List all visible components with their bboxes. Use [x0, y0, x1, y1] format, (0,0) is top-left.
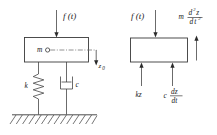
- svg-text:c: c: [164, 91, 168, 100]
- svg-text:d: d: [190, 17, 194, 26]
- svg-text:dz: dz: [171, 87, 178, 96]
- svg-text:m: m: [179, 12, 185, 21]
- left-physical-system: f (t) m z 0 k: [10, 10, 105, 124]
- spring-force-arrow: [139, 63, 143, 87]
- damper-element: [61, 72, 73, 115]
- ground-support: [10, 115, 97, 124]
- inertia-force-label: m d 2 z d t 2: [179, 7, 203, 26]
- spring-element: [33, 74, 44, 99]
- svg-text:t: t: [194, 17, 197, 26]
- left-applied-force-label: f (t): [63, 11, 76, 21]
- diagram-canvas: f (t) m z 0 k: [0, 0, 217, 135]
- spring-force-label: kz: [136, 90, 142, 99]
- fbd-body-block: [131, 38, 188, 62]
- svg-text:dt: dt: [172, 96, 179, 105]
- svg-text:d: d: [189, 8, 193, 17]
- svg-text:z: z: [98, 62, 102, 70]
- inertia-force-arrow: [194, 36, 198, 61]
- mass-center-dot: [46, 48, 50, 52]
- left-applied-force-arrow: [54, 10, 58, 38]
- figure-root: f (t) m z 0 k: [0, 0, 217, 135]
- mass-label: m: [37, 45, 43, 54]
- svg-text:0: 0: [102, 65, 105, 71]
- right-free-body-diagram: f (t) m d 2 z d t 2: [131, 7, 203, 104]
- spring-label-k: k: [25, 81, 29, 90]
- damper-force-arrow: [170, 63, 174, 87]
- fbd-applied-force-arrow: [153, 10, 157, 38]
- displacement-label-z0: z 0: [98, 62, 106, 71]
- fbd-applied-force-label: f (t): [131, 11, 144, 21]
- damper-label-c: c: [76, 80, 80, 89]
- damper-force-label: c dz dt: [164, 87, 183, 105]
